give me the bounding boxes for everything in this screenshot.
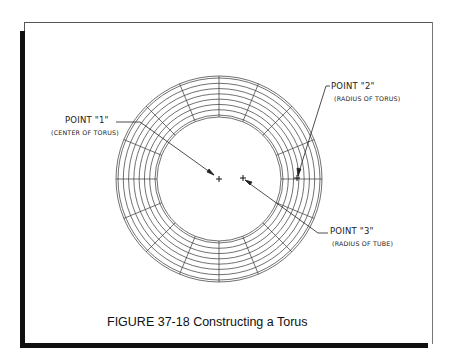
point1-sublabel: (CENTER OF TORUS) <box>51 129 119 136</box>
leader-point2 <box>298 86 330 175</box>
point1-label: POINT "1" <box>65 115 109 125</box>
point2-label: POINT "2" <box>331 81 375 91</box>
torus-drawing <box>0 0 456 363</box>
point-markers <box>216 175 300 182</box>
point1-center-marker <box>216 176 222 182</box>
figure-caption: FIGURE 37-18 Constructing a Torus <box>107 315 308 329</box>
point3-sublabel: (RADIUS OF TUBE) <box>332 240 393 247</box>
point3-label: POINT "3" <box>330 226 374 236</box>
point2-sublabel: (RADIUS OF TORUS) <box>334 95 400 102</box>
